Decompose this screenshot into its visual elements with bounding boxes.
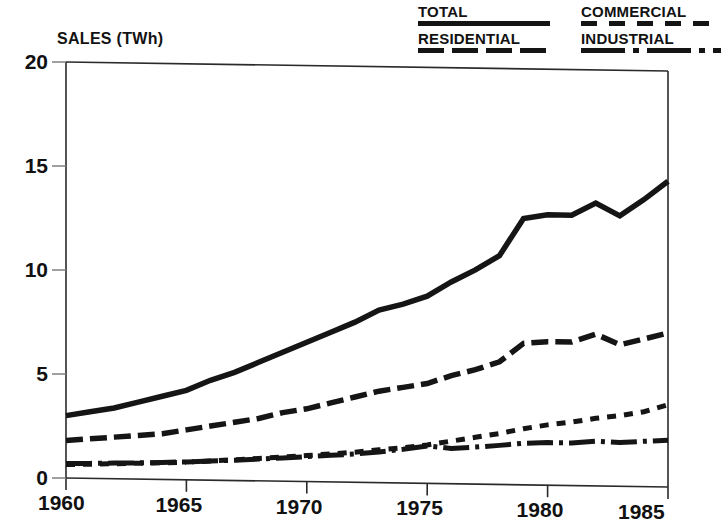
plot-area (0, 0, 726, 522)
x-axis-line (66, 478, 668, 487)
series-line-total (66, 181, 668, 415)
plot-top-border (66, 62, 668, 71)
series-line-industrial (66, 440, 668, 463)
series-line-commercial (66, 405, 668, 465)
sales-line-chart: TOTAL RESIDENTIAL COMMERCIAL INDUSTRIAL … (0, 0, 726, 522)
series-line-residential (66, 333, 668, 440)
